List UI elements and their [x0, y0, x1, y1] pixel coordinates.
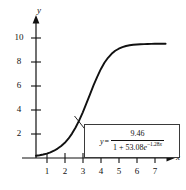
x-tick-label-5: 5 [113, 167, 125, 176]
equation-exponent-variable: x [160, 141, 162, 147]
figure-logistic-curve: y x 10 8 6 4 2 1 2 3 4 5 6 7 y = 9.46 1 … [0, 0, 186, 190]
x-tick-label-1: 1 [41, 167, 53, 176]
y-axis-arrowhead [33, 15, 40, 24]
equation-box: y = 9.46 1 + 53.08e–1.28x [84, 124, 180, 158]
equation-exponent: –1.28 [147, 141, 159, 147]
x-tick-label-3: 3 [77, 167, 89, 176]
equation-numerator: 9.46 [127, 130, 149, 139]
x-tick-label-4: 4 [95, 167, 107, 176]
equation-equals-sign: = [105, 137, 110, 146]
y-tick-label-6: 6 [10, 81, 28, 90]
equation-lhs: y [100, 137, 104, 146]
y-tick-label-8: 8 [10, 57, 28, 66]
equation-fraction: 9.46 1 + 53.08e–1.28x [111, 130, 164, 151]
plot-canvas [0, 0, 186, 190]
equation-denominator-prefix: 1 + 53.08 [113, 142, 144, 151]
y-tick-label-2: 2 [10, 129, 28, 138]
equation: y = 9.46 1 + 53.08e–1.28x [100, 130, 164, 151]
y-tick-label-4: 4 [10, 105, 28, 114]
x-tick-label-2: 2 [59, 167, 71, 176]
equation-denominator: 1 + 53.08e–1.28x [111, 141, 164, 152]
y-tick-label-10: 10 [10, 33, 28, 42]
x-tick-label-6: 6 [131, 167, 143, 176]
x-tick-label-7: 7 [149, 167, 161, 176]
y-axis-label: y [37, 6, 41, 15]
